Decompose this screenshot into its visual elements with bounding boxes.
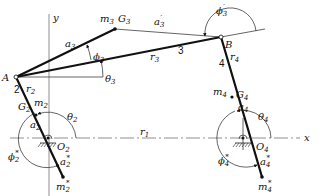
label-theta3: θ3: [105, 73, 116, 86]
label-m4: m4: [213, 86, 227, 99]
mass-center-g4: [230, 95, 233, 98]
x-axis-label: x: [304, 132, 310, 143]
phi2-star-arc: [18, 113, 59, 168]
ground-pivot-o4: [233, 135, 251, 147]
label-a3-prime: a3′: [154, 14, 165, 29]
link3-extension: [221, 29, 265, 37]
label-o2: O2: [57, 141, 70, 154]
label-theta2: θ2: [67, 111, 78, 124]
label-a4-star: a4*: [260, 154, 270, 169]
counterweight-m4-star: [260, 175, 264, 179]
label-phi4-star: ϕ4*: [218, 153, 229, 168]
phi3-arc: [87, 45, 91, 60]
label-m2-star: m2*: [56, 179, 70, 194]
label-a4: a4: [238, 101, 248, 114]
four-bar-linkage-diagram: y x A B O2 O4 2 3 4 r2: [0, 0, 323, 196]
label-m2: m2: [34, 97, 48, 110]
label-a2: a2: [30, 119, 41, 132]
label-theta4: θ4: [258, 111, 269, 124]
label-r1: r1: [140, 126, 149, 139]
label-phi3-prime: ϕ3′: [216, 3, 228, 18]
label-b: B: [224, 39, 232, 50]
counterweight-m2-star: [61, 175, 65, 179]
theta4-arc: [237, 110, 271, 138]
label-m3: m3: [100, 13, 114, 26]
label-r3: r3: [150, 51, 160, 64]
link3-r3: [16, 37, 221, 77]
label-o4: O4: [256, 141, 269, 154]
link4-number: 4: [219, 58, 225, 69]
mass-center-g2: [34, 113, 37, 116]
joint-a: [14, 75, 18, 79]
link3-upper-edge: [16, 29, 115, 77]
joint-b: [219, 35, 223, 39]
label-a2-star: a2*: [60, 154, 71, 169]
label-m4-star: m4*: [258, 179, 272, 194]
mass-center-g3: [113, 27, 117, 31]
label-phi2-star: ϕ2*: [8, 149, 20, 164]
link2-number: 2: [14, 84, 20, 95]
y-axis-label: y: [52, 12, 59, 23]
label-r4: r4: [230, 51, 239, 64]
label-g3: G3: [118, 13, 131, 26]
label-a3: a3: [65, 38, 76, 51]
link3-number: 3: [178, 45, 184, 56]
label-r2: r2: [26, 83, 36, 96]
label-a: A: [1, 72, 9, 83]
